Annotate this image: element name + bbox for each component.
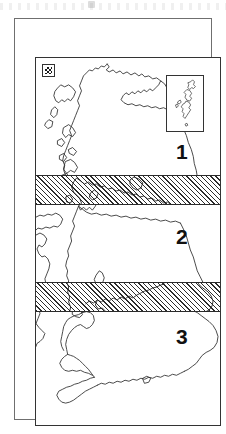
scan-artifact-strip: [0, 3, 226, 10]
outer-figure-border: 1 2 3: [14, 18, 212, 420]
zone-label-1: 1: [176, 141, 188, 162]
figure-page: 1 2 3: [0, 0, 226, 434]
shetland-islands-inset: [166, 75, 204, 132]
zone-label-3: 3: [176, 326, 188, 347]
map-neatline: 1 2 3: [35, 57, 221, 426]
zone-label-2: 2: [176, 226, 188, 247]
scan-artifact-mark: [88, 1, 95, 8]
coastline-in-south-band: [36, 282, 220, 312]
hatch-pattern-swatch: [42, 64, 55, 77]
shetland-coastline: [167, 76, 203, 131]
hatch-pattern-swatch-fill: [45, 67, 52, 74]
coastline-in-north-band: [36, 175, 220, 205]
